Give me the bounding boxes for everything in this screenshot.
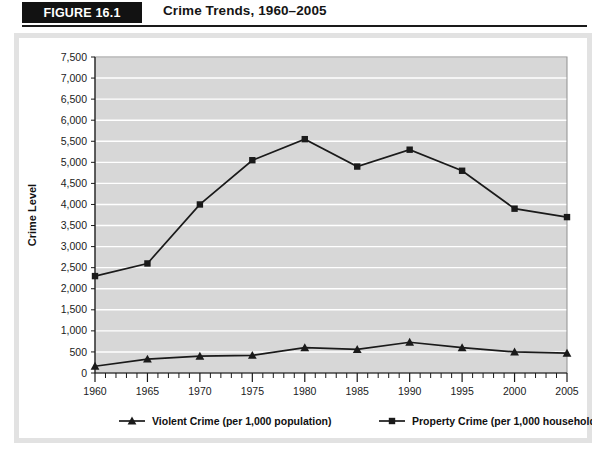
x-axis-tick-label: 1960 <box>83 385 107 397</box>
y-axis-title: Crime Level <box>26 184 38 246</box>
plot-area-background <box>95 57 567 373</box>
chart-container: 05001,0001,5002,0002,5003,0003,5004,0004… <box>14 33 592 443</box>
data-point-series-2 <box>197 201 203 207</box>
data-point-series-2 <box>459 168 465 174</box>
y-axis-tick-label: 6,500 <box>61 93 87 105</box>
y-axis-tick-label: 1,500 <box>61 303 87 315</box>
y-axis-tick-label: 7,000 <box>61 72 87 84</box>
x-axis-tick-label: 2005 <box>555 385 579 397</box>
legend-marker-2 <box>389 418 395 424</box>
y-axis-tick-label: 4,000 <box>61 198 87 210</box>
x-axis-tick-label: 2000 <box>503 385 527 397</box>
x-axis-tick-label: 1975 <box>241 385 265 397</box>
y-axis-tick-label: 3,000 <box>61 240 87 252</box>
data-point-series-2 <box>92 273 98 279</box>
y-axis-tick-label: 2,000 <box>61 282 87 294</box>
y-axis-tick-label: 7,500 <box>61 51 87 63</box>
x-axis-tick-label: 1970 <box>188 385 212 397</box>
legend-item-1: Violent Crime (per 1,000 population) <box>119 415 332 427</box>
x-axis-tick-label: 1985 <box>346 385 370 397</box>
data-point-series-2 <box>144 260 150 266</box>
figure-header: FIGURE 16.1 Crime Trends, 1960–2005 <box>0 0 610 28</box>
data-point-series-2 <box>564 214 570 220</box>
y-axis-tick-label: 1,000 <box>61 324 87 336</box>
legend-item-2: Property Crime (per 1,000 households) <box>379 415 592 427</box>
crime-trends-line-chart: 05001,0001,5002,0002,5003,0003,5004,0004… <box>14 33 592 443</box>
legend-label-1: Violent Crime (per 1,000 population) <box>152 415 332 427</box>
x-axis-tick-label: 1995 <box>450 385 474 397</box>
data-point-series-2 <box>354 163 360 169</box>
data-point-series-2 <box>302 136 308 142</box>
y-axis-tick-label: 3,500 <box>61 219 87 231</box>
legend-label-2: Property Crime (per 1,000 households) <box>412 415 592 427</box>
y-axis-tick-label: 5,000 <box>61 156 87 168</box>
figure-title: Crime Trends, 1960–2005 <box>163 3 327 18</box>
y-axis-tick-label: 4,500 <box>61 177 87 189</box>
data-point-series-2 <box>511 205 517 211</box>
figure-number-badge: FIGURE 16.1 <box>22 2 142 23</box>
header-divider <box>22 25 587 27</box>
x-axis-tick-label: 1990 <box>398 385 422 397</box>
x-axis-tick-label: 1980 <box>293 385 317 397</box>
x-axis-tick-label: 1965 <box>136 385 160 397</box>
y-axis-tick-label: 2,500 <box>61 261 87 273</box>
data-point-series-2 <box>249 157 255 163</box>
y-axis-tick-label: 6,000 <box>61 114 87 126</box>
y-axis-tick-label: 0 <box>81 367 87 379</box>
y-axis-tick-label: 500 <box>69 346 87 358</box>
data-point-series-2 <box>406 146 412 152</box>
y-axis-tick-label: 5,500 <box>61 135 87 147</box>
